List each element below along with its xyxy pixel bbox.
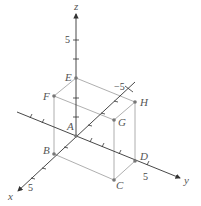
3d-coordinate-diagram: z 5 y 5 x 5 −5 A B C D E F G H — [0, 0, 201, 206]
y-tick-label: 5 — [143, 171, 148, 182]
point-label-a: A — [66, 120, 74, 132]
point-label-c: C — [116, 179, 124, 191]
point-label-e: E — [64, 71, 72, 83]
point-label-b: B — [43, 144, 50, 156]
y-ticks — [30, 114, 149, 165]
neg-x-tick-label: −5 — [114, 81, 125, 92]
point-label-d: D — [139, 150, 148, 162]
y-axis — [17, 112, 180, 178]
x-tick-label: 5 — [28, 182, 33, 193]
x-axis-label: x — [7, 190, 13, 202]
point-label-g: G — [118, 116, 126, 128]
point-label-h: H — [139, 96, 149, 108]
z-tick-label: 5 — [65, 34, 70, 45]
point-label-f: F — [42, 90, 50, 102]
z-axis-label: z — [73, 0, 79, 12]
y-axis-label: y — [183, 174, 189, 186]
axes — [17, 14, 180, 191]
